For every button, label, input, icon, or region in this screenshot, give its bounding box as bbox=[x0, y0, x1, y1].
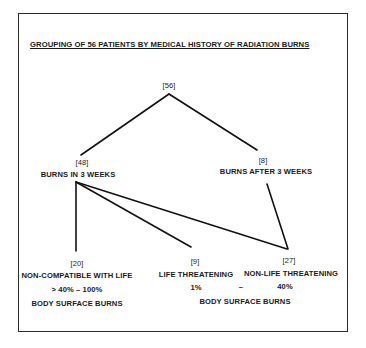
range-high: 40% bbox=[277, 283, 293, 291]
node-lifethreat-count: [9] bbox=[191, 258, 200, 266]
node-after3weeks-label: BURNS AFTER 3 WEEKS bbox=[220, 168, 312, 176]
shared-sublabel: BODY SURFACE BURNS bbox=[199, 298, 290, 306]
node-root-count: [56] bbox=[162, 82, 175, 90]
node-in3weeks-label: BURNS IN 3 WEEKS bbox=[41, 171, 116, 179]
edge-after3weeks-nonlifethreat bbox=[267, 184, 288, 249]
node-noncompatible-label: NON-COMPATIBLE WITH LIFE bbox=[22, 272, 133, 280]
node-noncompatible-range: > 40% – 100% bbox=[52, 286, 103, 294]
range-dash: – bbox=[239, 283, 243, 291]
node-lifethreat-label: LIFE THREATENING bbox=[159, 271, 233, 279]
edge-root-after3weeks bbox=[169, 94, 257, 150]
node-after3weeks-count: [8] bbox=[259, 157, 268, 165]
edge-in3weeks-nonlifethreat bbox=[76, 182, 287, 249]
node-nonlifethreat-label: NON-LIFE THREATENING bbox=[244, 270, 338, 278]
range-low: 1% bbox=[190, 284, 201, 292]
node-in3weeks-count: [48] bbox=[75, 159, 88, 167]
node-noncompatible-count: [20] bbox=[70, 260, 83, 268]
node-noncompatible-sublabel: BODY SURFACE BURNS bbox=[31, 300, 122, 308]
edge-root-in3weeks bbox=[81, 94, 169, 155]
edge-in3weeks-lifethreat bbox=[76, 182, 191, 247]
node-nonlifethreat-count: [27] bbox=[282, 257, 295, 265]
